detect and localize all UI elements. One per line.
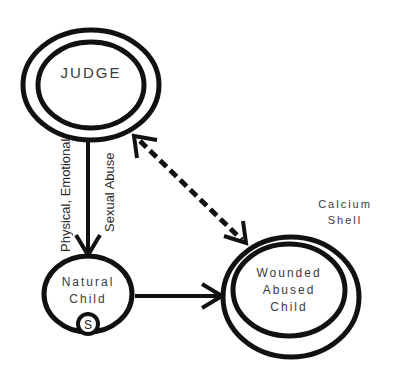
abuse-arrow: Physical, Emotional Sexual Abuse [58, 138, 117, 255]
calcium-shell-line1: Calcium [318, 198, 372, 210]
calcium-shell-ring [223, 237, 359, 357]
natural-child-node: Natural Child S [44, 256, 132, 334]
self-badge-label: S [84, 318, 92, 332]
edge-label-sexual-abuse: Sexual Abuse [102, 152, 117, 232]
wounded-label-line1: Wounded [256, 266, 321, 280]
wounding-arrow [135, 284, 222, 308]
wounded-label-line3: Child [270, 300, 307, 314]
judge-outer-ring [23, 30, 159, 140]
edge-label-physical-emotional: Physical, Emotional [58, 138, 73, 252]
judge-node: JUDGE [23, 30, 159, 140]
wounded-label-line2: Abused [263, 283, 316, 297]
diagram-canvas: JUDGE Physical, Emotional Sexual Abuse N… [0, 0, 393, 376]
natural-child-label-line2: Child [69, 292, 106, 306]
judge-inner-ring [38, 42, 144, 128]
calcium-shell-line2: Shell [328, 214, 362, 226]
judge-label: JUDGE [61, 64, 122, 81]
judge-wounded-dashed-arrow [134, 136, 246, 243]
wounded-child-node: Wounded Abused Child [223, 237, 359, 357]
calcium-shell-annotation: Calcium Shell [318, 198, 372, 226]
natural-child-label-line1: Natural [62, 275, 115, 289]
